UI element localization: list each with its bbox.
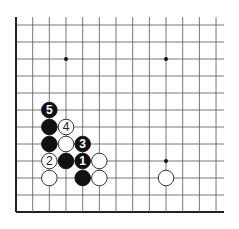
move-number: 1	[79, 154, 86, 168]
stone-circle	[42, 136, 58, 152]
stone-circle	[58, 153, 74, 169]
white-stone	[92, 153, 108, 169]
black-stone: 5	[42, 102, 58, 118]
white-stone	[42, 170, 58, 186]
go-board: 54321	[0, 0, 239, 229]
white-stone	[158, 170, 174, 186]
white-stone: 2	[42, 153, 58, 169]
stone-circle	[92, 170, 108, 186]
star-point	[64, 57, 68, 61]
stone-circle	[42, 170, 58, 186]
white-stone	[92, 170, 108, 186]
stone-circle	[75, 170, 91, 186]
star-point	[164, 159, 168, 163]
stone-circle	[58, 136, 74, 152]
black-stone	[42, 119, 58, 135]
move-number: 5	[46, 103, 53, 117]
white-stone	[58, 136, 74, 152]
black-stone: 3	[75, 136, 91, 152]
move-number: 4	[63, 120, 70, 134]
black-stone	[42, 136, 58, 152]
stone-circle	[158, 170, 174, 186]
move-number: 2	[46, 154, 53, 168]
stone-circle	[92, 153, 108, 169]
black-stone: 1	[75, 153, 91, 169]
black-stone	[75, 170, 91, 186]
star-point	[164, 57, 168, 61]
stone-circle	[42, 119, 58, 135]
black-stone	[58, 153, 74, 169]
move-number: 3	[79, 137, 86, 151]
white-stone: 4	[58, 119, 74, 135]
